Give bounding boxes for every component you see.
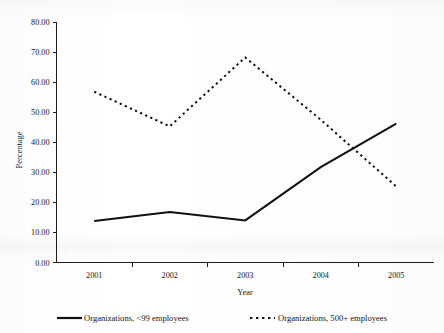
y-tick-label: 60.00 — [31, 78, 49, 87]
series-line-500-plus-employees — [94, 57, 396, 186]
x-tick-label: 2002 — [162, 271, 178, 280]
y-tick-label: 40.00 — [31, 138, 49, 147]
legend-label-under-99-employees: Organizations, <99 employees — [84, 313, 189, 323]
x-axis-title: Year — [237, 288, 253, 297]
chart-legend: Organizations, <99 employees Organizatio… — [57, 313, 388, 323]
y-axis-ticks: 0.0010.0020.0030.0040.0050.0060.0070.008… — [31, 18, 56, 268]
y-tick-label: 80.00 — [31, 18, 49, 27]
y-tick-label: 70.00 — [31, 48, 49, 57]
x-axis-ticks — [132, 263, 359, 267]
y-tick-label: 0.00 — [35, 259, 49, 268]
y-tick-label: 30.00 — [31, 168, 49, 177]
y-tick-label: 10.00 — [31, 228, 49, 237]
line-chart-plot: 0.0010.0020.0030.0040.0050.0060.0070.008… — [0, 0, 444, 333]
legend-label-500-plus-employees: Organizations, 500+ employees — [278, 313, 388, 323]
x-tick-label: 2003 — [237, 271, 253, 280]
x-axis-labels: 20012002200320042005 — [86, 271, 404, 280]
chart-figure: 0.0010.0020.0030.0040.0050.0060.0070.008… — [0, 0, 444, 333]
x-tick-label: 2001 — [86, 271, 102, 280]
x-tick-label: 2004 — [313, 271, 329, 280]
x-tick-label: 2005 — [388, 271, 404, 280]
y-axis-title: Percentage — [15, 131, 24, 168]
y-tick-label: 50.00 — [31, 108, 49, 117]
y-tick-label: 20.00 — [31, 198, 49, 207]
series-line-under-99-employees — [94, 124, 396, 221]
